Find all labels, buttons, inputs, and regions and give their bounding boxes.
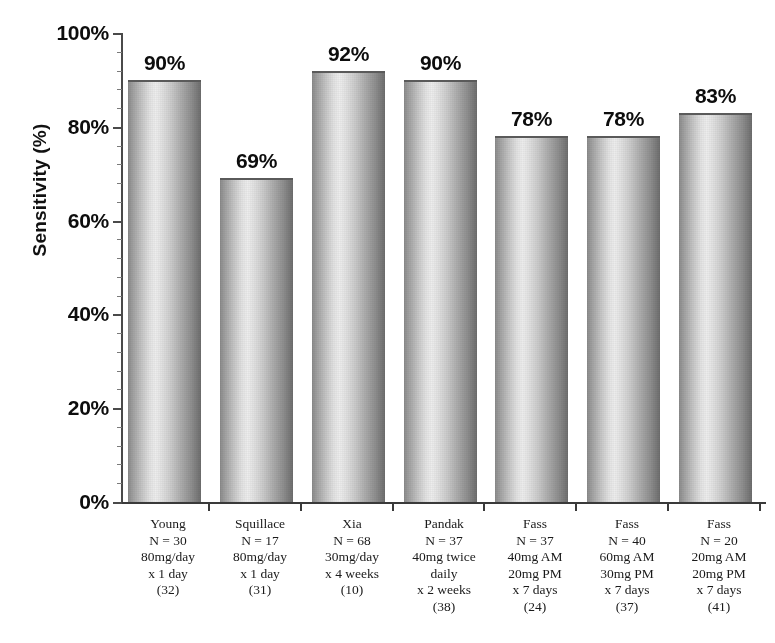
category-sample-size: N = 30: [122, 533, 214, 550]
category-dose-line: 20mg AM: [673, 549, 765, 566]
y-axis-minor-tick: [117, 108, 122, 109]
bar: 90%: [404, 80, 477, 502]
category-dose-line: x 7 days: [673, 582, 765, 599]
y-axis-tick-label: 0%: [79, 490, 109, 514]
x-axis-category-label: FassN = 4060mg AM30mg PMx 7 days(37): [581, 516, 673, 615]
category-dose-line: 80mg/day: [122, 549, 214, 566]
y-axis-minor-tick: [117, 89, 122, 90]
bar: 69%: [220, 178, 293, 502]
category-dose-line: 20mg PM: [673, 566, 765, 583]
category-sample-size: N = 37: [489, 533, 581, 550]
x-axis-tick: [483, 502, 485, 511]
bar-value-label: 78%: [603, 107, 644, 131]
category-dose-line: x 1 day: [122, 566, 214, 583]
category-author: Xia: [306, 516, 398, 533]
y-axis-minor-tick: [117, 277, 122, 278]
category-reference: (24): [489, 599, 581, 616]
x-axis-category-label: SquillaceN = 1780mg/dayx 1 day(31): [214, 516, 306, 599]
y-axis-minor-tick: [117, 483, 122, 484]
y-axis-tick: [113, 127, 122, 129]
category-dose-line: 80mg/day: [214, 549, 306, 566]
category-author: Pandak: [398, 516, 490, 533]
category-sample-size: N = 20: [673, 533, 765, 550]
category-dose-line: 60mg AM: [581, 549, 673, 566]
category-reference: (31): [214, 582, 306, 599]
category-dose-line: 20mg PM: [489, 566, 581, 583]
y-axis-minor-tick: [117, 352, 122, 353]
y-axis-tick: [113, 408, 122, 410]
y-axis-minor-tick: [117, 183, 122, 184]
x-axis-tick: [300, 502, 302, 511]
y-axis-minor-tick: [117, 71, 122, 72]
category-reference: (38): [398, 599, 490, 616]
y-axis-tick: [113, 314, 122, 316]
x-axis-tick: [575, 502, 577, 511]
y-axis-minor-tick: [117, 446, 122, 447]
category-author: Fass: [581, 516, 673, 533]
y-axis-tick: [113, 221, 122, 223]
category-sample-size: N = 68: [306, 533, 398, 550]
x-axis-tick: [392, 502, 394, 511]
y-axis-tick-label: 60%: [68, 209, 109, 233]
bar-value-label: 90%: [420, 51, 461, 75]
x-axis-tick: [208, 502, 210, 511]
y-axis-minor-tick: [117, 146, 122, 147]
category-dose-line: x 7 days: [489, 582, 581, 599]
y-axis-tick-label: 20%: [68, 396, 109, 420]
y-axis-tick-label: 80%: [68, 115, 109, 139]
bar: 78%: [495, 136, 568, 502]
y-axis-tick-label: 40%: [68, 302, 109, 326]
x-axis-category-label: FassN = 3740mg AM20mg PMx 7 days(24): [489, 516, 581, 615]
x-axis-tick: [667, 502, 669, 511]
category-dose-line: 30mg/day: [306, 549, 398, 566]
bar-value-label: 69%: [236, 149, 277, 173]
bar-value-label: 92%: [328, 42, 369, 66]
y-axis-minor-tick: [117, 333, 122, 334]
category-sample-size: N = 17: [214, 533, 306, 550]
y-axis-minor-tick: [117, 464, 122, 465]
category-dose-line: x 2 weeks: [398, 582, 490, 599]
y-axis-title: Sensitivity (%): [20, 70, 60, 310]
category-author: Young: [122, 516, 214, 533]
category-reference: (37): [581, 599, 673, 616]
category-dose-line: 40mg twice: [398, 549, 490, 566]
x-axis-line: [121, 502, 766, 504]
plot-area: 100%80%60%40%20%0%90%69%92%90%78%78%83%: [122, 33, 765, 502]
x-axis-category-label: PandakN = 3740mg twicedailyx 2 weeks(38): [398, 516, 490, 615]
y-axis-minor-tick: [117, 164, 122, 165]
y-axis-tick: [113, 33, 122, 35]
y-axis-tick-label: 100%: [56, 21, 109, 45]
bar: 83%: [679, 113, 752, 502]
x-axis-category-label: FassN = 2020mg AM20mg PMx 7 days(41): [673, 516, 765, 615]
bar: 92%: [312, 71, 385, 502]
category-reference: (32): [122, 582, 214, 599]
bar: 90%: [128, 80, 201, 502]
x-axis-tick: [759, 502, 761, 511]
y-axis-minor-tick: [117, 52, 122, 53]
y-axis-tick: [113, 502, 122, 504]
category-reference: (10): [306, 582, 398, 599]
bar: 78%: [587, 136, 660, 502]
bar-value-label: 78%: [511, 107, 552, 131]
y-axis-minor-tick: [117, 239, 122, 240]
y-axis-minor-tick: [117, 202, 122, 203]
y-axis-minor-tick: [117, 371, 122, 372]
x-axis-category-label: XiaN = 6830mg/dayx 4 weeks(10): [306, 516, 398, 599]
category-author: Fass: [489, 516, 581, 533]
y-axis-minor-tick: [117, 296, 122, 297]
y-axis-minor-tick: [117, 427, 122, 428]
category-dose-line: x 4 weeks: [306, 566, 398, 583]
category-author: Squillace: [214, 516, 306, 533]
category-sample-size: N = 37: [398, 533, 490, 550]
category-sample-size: N = 40: [581, 533, 673, 550]
category-reference: (41): [673, 599, 765, 616]
bar-value-label: 90%: [144, 51, 185, 75]
category-dose-line: x 1 day: [214, 566, 306, 583]
bar-value-label: 83%: [695, 84, 736, 108]
category-dose-line: 40mg AM: [489, 549, 581, 566]
category-dose-line: daily: [398, 566, 490, 583]
x-axis-category-label: YoungN = 3080mg/dayx 1 day(32): [122, 516, 214, 599]
y-axis-minor-tick: [117, 258, 122, 259]
y-axis-minor-tick: [117, 389, 122, 390]
category-dose-line: x 7 days: [581, 582, 673, 599]
